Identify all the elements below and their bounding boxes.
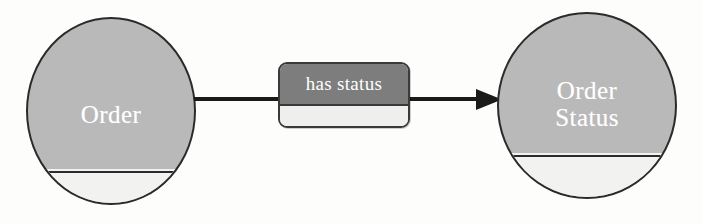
entity-label-order-status: Order Status — [499, 77, 675, 131]
relationship-label-body — [280, 106, 408, 126]
diagram-canvas: Order has status Order Status — [0, 0, 703, 224]
entity-compartment-divider — [499, 155, 675, 157]
relationship-label-text: has status — [306, 73, 382, 95]
relationship-label-box[interactable]: has status — [278, 62, 410, 128]
entity-label-line-2: Status — [499, 104, 675, 131]
relationship-label-header: has status — [280, 64, 408, 106]
entity-node-order[interactable]: Order — [26, 17, 196, 205]
entity-compartment-divider — [28, 171, 194, 173]
entity-lower-compartment — [499, 153, 675, 197]
entity-label-order: Order — [28, 101, 194, 128]
entity-label-line-1: Order — [557, 77, 617, 104]
entity-lower-compartment — [28, 169, 194, 203]
entity-node-order-status[interactable]: Order Status — [497, 12, 677, 199]
